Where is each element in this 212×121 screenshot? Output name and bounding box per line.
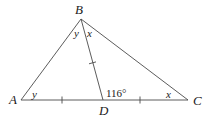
point-label-d: D <box>98 103 109 118</box>
angle-label-abd: y <box>73 27 79 39</box>
angle-label-bdc: 116° <box>106 87 127 99</box>
segment-bc <box>81 19 188 100</box>
angle-label-dbc: x <box>86 27 92 39</box>
segment-ab <box>21 19 81 100</box>
angle-label-a: y <box>31 88 37 100</box>
segment-bd <box>81 19 103 100</box>
angle-label-c: x <box>165 88 171 100</box>
triangle-diagram: B A C D y x y x 116° <box>0 0 212 121</box>
point-label-c: C <box>193 93 202 108</box>
point-label-a: A <box>8 92 17 107</box>
point-label-b: B <box>75 2 83 17</box>
